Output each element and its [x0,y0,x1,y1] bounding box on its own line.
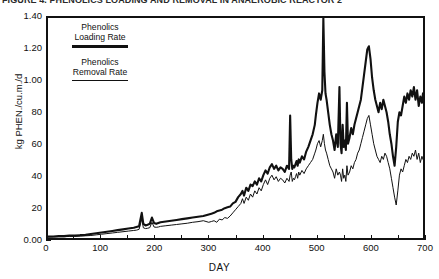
legend-label-removal-line1: Phenolics [58,57,142,67]
x-tick-mark [100,235,101,240]
x-tick-label: 100 [80,242,120,253]
figure-title: FIGURE 4. PHENOLICS LOADING AND REMOVAL … [2,0,439,6]
y-tick-label: 80 [2,107,42,117]
x-minor-tick-mark [398,235,399,238]
x-axis-label: DAY [0,262,439,273]
legend-entry-loading-rate: Phenolics Loading Rate [58,22,142,48]
y-tick-label: 1.00 [2,75,42,85]
y-tick-label: 20 [2,203,42,213]
x-minor-tick-mark [344,235,345,238]
x-tick-label: 700 [405,242,439,253]
x-minor-tick-mark [73,235,74,238]
y-tick-label: 60 [2,139,42,149]
legend-label-removal-line2: Removal Rate [58,67,142,77]
x-minor-tick-mark [236,235,237,238]
legend-swatch-loading-rate [72,45,128,48]
y-tick-label: 1.40 [2,11,42,21]
x-tick-label: 500 [297,242,337,253]
x-tick-label: 400 [243,242,283,253]
x-tick-mark [208,235,209,240]
x-tick-mark [371,235,372,240]
x-tick-mark [154,235,155,240]
legend-swatch-removal-rate [72,80,128,81]
x-tick-mark [425,235,426,240]
series-line-phenolics-loading-rate [48,18,423,236]
y-tick-mark [46,240,51,241]
y-tick-label: 1.20 [2,43,42,53]
chart-svg [48,18,423,238]
legend-label-loading-line2: Loading Rate [58,32,142,42]
x-tick-mark [263,235,264,240]
plot-area [46,16,425,240]
figure-container: FIGURE 4. PHENOLICS LOADING AND REMOVAL … [0,0,439,279]
x-tick-mark [317,235,318,240]
legend-entry-removal-rate: Phenolics Removal Rate [58,57,142,81]
x-minor-tick-mark [181,235,182,238]
series-line-phenolics-removal-rate [48,115,423,237]
x-minor-tick-mark [127,235,128,238]
y-tick-label: 40 [2,171,42,181]
x-minor-tick-mark [290,235,291,238]
x-tick-label: 0 [26,242,66,253]
x-tick-label: 300 [188,242,228,253]
x-tick-label: 200 [134,242,174,253]
x-tick-label: 600 [351,242,391,253]
legend-label-loading-line1: Phenolics [58,22,142,32]
x-tick-mark [46,235,47,240]
